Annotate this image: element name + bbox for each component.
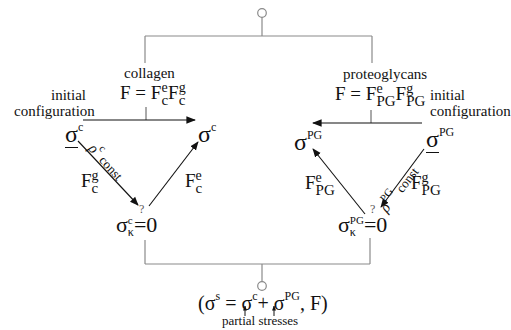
collagen-Fg-edge-sub: c [92,182,99,195]
pg-Fe-edge-base: F [305,172,316,193]
pg-intermediate-eq: =0 [364,212,387,237]
pg-sigma-current-sup: PG [307,128,322,142]
collagen-sigma-initial-sup: c [78,120,83,134]
pg-Fg-base: F [396,83,407,104]
pg-sigma-initial-sup: PG [439,125,454,139]
pg-Fg-edge-base: F [411,172,422,193]
collagen-intermediate-stress: σcκ=0 [116,214,157,238]
pg-intermediate-sub: κ [350,226,364,238]
pg-initial-label-2: configuration [430,104,511,119]
collagen-sigma-initial-symbol: σ [65,121,78,148]
mixture-plus: + [258,292,274,314]
collagen-F-eq: F = [120,82,151,103]
collagen-Fg-edge-base: F [81,170,92,191]
pg-Fe-edge-label: FePG [305,172,335,197]
pg-F-eq: F = [335,83,366,104]
collagen-initial-label-2: configuration [14,104,95,119]
pg-label: proteoglycans [343,67,427,82]
pg-Fe-base: F [366,83,377,104]
collagen-Fg-base: F [168,82,179,103]
mixture-c-sup: c [252,289,257,303]
pg-sigma-current-symbol: σ [294,129,307,155]
bottom-node-circle [258,282,267,291]
pg-Fg-edge-label: FgPG [411,172,441,197]
mixture-sigma-pg: σ [274,292,285,314]
collagen-label: collagen [124,66,175,81]
collagen-Fe-edge-label: Fec [185,170,202,195]
mixture-eq: = [220,292,241,314]
collagen-intermediate-sigma: σ [116,212,128,237]
collagen-sigma-initial: σc [65,122,83,146]
collagen-Fe-edge-base: F [185,170,196,191]
collagen-Fe-edge-sub: c [196,182,203,195]
pg-sigma-current: σPG [294,130,322,154]
collagen-initial-label-1: initial [51,88,86,103]
collagen-F-decomposition: F = FecFgc [120,82,186,107]
pg-sigma-initial: σPG [426,127,454,151]
collagen-Fg-edge-label: Fgc [81,170,99,195]
collagen-sigma-current: σc [198,122,216,146]
mixture-open: (σ [198,292,215,314]
pg-Fg-sub: PG [406,95,425,108]
partial-stresses-label: partial stresses [222,314,298,327]
pg-F-decomposition: F = FePGFgPG [335,83,425,108]
collagen-intermediate-eq: =0 [134,212,157,237]
top-node-circle [258,9,267,18]
mixture-sigma-c: σ [241,292,252,314]
mixture-stress-equation: (σs = σc+ σPG, F) [198,292,328,313]
collagen-Fe-base: F [151,82,162,103]
pg-initial-label-1: initial [430,88,465,103]
pg-Fg-edge-sub: PG [422,184,441,197]
collagen-Fg-sub: c [179,94,186,107]
mixture-pg-sup: PG [285,289,300,303]
collagen-sigma-current-sup: c [211,120,216,134]
mixture-tail: , F) [300,292,328,314]
pg-sigma-initial-symbol: σ [426,126,439,153]
pg-intermediate-sigma: σ [338,212,350,237]
mixture-s-sup: s [215,289,220,303]
collagen-intermediate-sub: κ [128,226,134,238]
pg-Fe-edge-sub: PG [316,184,335,197]
pg-intermediate-stress: σPGκ=0 [338,214,387,238]
pg-Fe-sub: PG [376,95,395,108]
collagen-sigma-current-symbol: σ [198,121,211,147]
collagen-Fe-sub: c [161,94,168,107]
